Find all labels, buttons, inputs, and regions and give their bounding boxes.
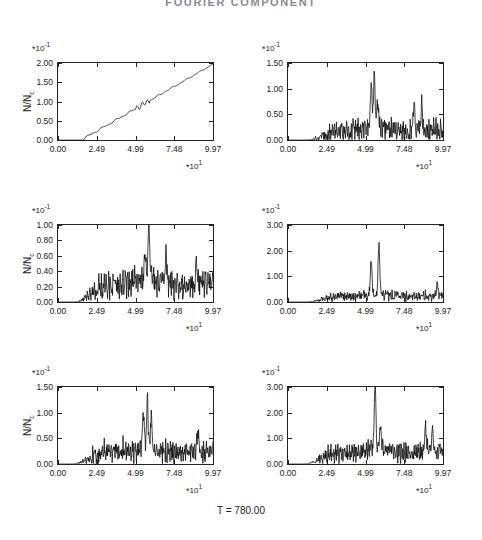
- plot-canvas: [58, 387, 213, 464]
- y-axis-tick-label: 3.00: [252, 382, 283, 392]
- y-axis-tick-label: 0.00: [252, 135, 283, 145]
- x-axis-multiplier: *101: [186, 159, 202, 172]
- plot-canvas: [58, 225, 213, 302]
- x-axis-multiplier: *101: [416, 483, 432, 496]
- y-multiplier-exponent: -1: [44, 41, 50, 48]
- y-axis-tick-label: 1.50: [252, 58, 283, 68]
- x-axis-tick-label: 0.00: [50, 144, 67, 154]
- y-axis-tick-label: 0.00: [252, 459, 283, 469]
- data-series-line: [58, 64, 213, 140]
- x-axis-tick-label: 7.48: [166, 306, 183, 316]
- y-axis-tick-label: 1.00: [252, 84, 283, 94]
- y-axis-label-subscript: c: [28, 415, 35, 419]
- y-axis-multiplier: *10-1: [32, 203, 50, 216]
- y-axis-tick-label: 2.00: [252, 408, 283, 418]
- data-series-line: [58, 225, 213, 302]
- x-axis-multiplier: *101: [186, 321, 202, 334]
- data-series-line: [288, 387, 443, 464]
- y-axis-tick-label: 2.00: [22, 58, 53, 68]
- y-axis-label: N/Nc: [22, 405, 35, 445]
- x-axis-tick-label: 2.49: [318, 468, 335, 478]
- y-axis-multiplier: *10-1: [262, 203, 280, 216]
- x-axis-tick-label: 0.00: [280, 306, 297, 316]
- plot-canvas: [288, 63, 443, 140]
- y-multiplier-exponent: -1: [44, 365, 50, 372]
- data-series-line: [288, 242, 443, 302]
- y-multiplier-exponent: -1: [274, 203, 280, 210]
- y-axis-multiplier: *10-1: [32, 365, 50, 378]
- x-axis-tick-label: 4.99: [357, 306, 374, 316]
- y-axis-tick-label: 1.50: [22, 382, 53, 392]
- x-axis-multiplier: *101: [186, 483, 202, 496]
- y-axis-label-main: N/N: [22, 418, 33, 435]
- x-multiplier-exponent: 1: [428, 159, 432, 166]
- y-axis-tick-label: 1.00: [252, 271, 283, 281]
- x-multiplier-exponent: 1: [428, 321, 432, 328]
- axis-ticks: [288, 225, 443, 302]
- plot-area: [57, 224, 214, 303]
- y-axis-tick-label: 1.00: [22, 220, 53, 230]
- y-axis-label: N/Nc: [22, 243, 35, 283]
- x-axis-tick-label: 9.97: [435, 144, 452, 154]
- y-axis-tick-label: 0.00: [252, 297, 283, 307]
- figure-footer-note: T = 780.00: [0, 505, 482, 516]
- plot-area: [287, 224, 444, 303]
- x-axis-tick-label: 9.97: [205, 468, 222, 478]
- figure-title: FOURIER COMPONENT: [0, 0, 482, 8]
- y-axis-label-main: N/N: [22, 94, 33, 111]
- x-axis-tick-label: 7.48: [396, 306, 413, 316]
- plot-canvas: [58, 63, 213, 140]
- data-series-line: [288, 71, 443, 140]
- x-axis-multiplier: *101: [416, 321, 432, 334]
- figure-root: FOURIER COMPONENT *10-10.000.501.001.502…: [0, 0, 482, 540]
- data-series-line: [58, 393, 213, 464]
- x-multiplier-exponent: 1: [198, 483, 202, 490]
- y-axis-tick-label: 0.50: [252, 109, 283, 119]
- y-axis-label-subscript: c: [28, 253, 35, 257]
- y-axis-label: N/Nc: [22, 81, 35, 121]
- y-multiplier-exponent: -1: [274, 41, 280, 48]
- y-axis-multiplier: *10-1: [262, 41, 280, 54]
- x-multiplier-exponent: 1: [428, 483, 432, 490]
- x-axis-tick-label: 7.48: [396, 468, 413, 478]
- plot-area: [287, 62, 444, 141]
- y-axis-label-main: N/N: [22, 256, 33, 273]
- x-axis-tick-label: 4.99: [357, 144, 374, 154]
- x-multiplier-exponent: 1: [198, 159, 202, 166]
- y-axis-tick-label: 1.00: [252, 433, 283, 443]
- x-axis-tick-label: 9.97: [435, 468, 452, 478]
- x-axis-tick-label: 2.49: [88, 306, 105, 316]
- x-axis-tick-label: 9.97: [205, 306, 222, 316]
- x-axis-tick-label: 4.99: [127, 306, 144, 316]
- x-axis-tick-label: 2.49: [88, 144, 105, 154]
- y-axis-tick-label: 0.00: [22, 297, 53, 307]
- x-axis-tick-label: 7.48: [166, 468, 183, 478]
- plot-area: [287, 386, 444, 465]
- plot-area: [57, 386, 214, 465]
- x-axis-tick-label: 2.49: [318, 144, 335, 154]
- y-axis-tick-label: 3.00: [252, 220, 283, 230]
- x-axis-tick-label: 2.49: [88, 468, 105, 478]
- y-axis-multiplier: *10-1: [32, 41, 50, 54]
- x-multiplier-exponent: 1: [198, 321, 202, 328]
- x-axis-tick-label: 7.48: [396, 144, 413, 154]
- plot-canvas: [288, 387, 443, 464]
- y-axis-tick-label: 2.00: [252, 246, 283, 256]
- plot-canvas: [288, 225, 443, 302]
- x-axis-tick-label: 2.49: [318, 306, 335, 316]
- x-axis-tick-label: 4.99: [127, 468, 144, 478]
- axis-ticks: [58, 63, 213, 140]
- y-axis-label-subscript: c: [28, 91, 35, 95]
- x-axis-tick-label: 9.97: [205, 144, 222, 154]
- x-axis-tick-label: 9.97: [435, 306, 452, 316]
- x-axis-tick-label: 0.00: [280, 144, 297, 154]
- x-axis-tick-label: 0.00: [280, 468, 297, 478]
- x-axis-multiplier: *101: [416, 159, 432, 172]
- plot-area: [57, 62, 214, 141]
- y-multiplier-exponent: -1: [44, 203, 50, 210]
- y-axis-multiplier: *10-1: [262, 365, 280, 378]
- y-multiplier-exponent: -1: [274, 365, 280, 372]
- x-axis-tick-label: 4.99: [357, 468, 374, 478]
- x-axis-tick-label: 7.48: [166, 144, 183, 154]
- y-axis-tick-label: 0.00: [22, 135, 53, 145]
